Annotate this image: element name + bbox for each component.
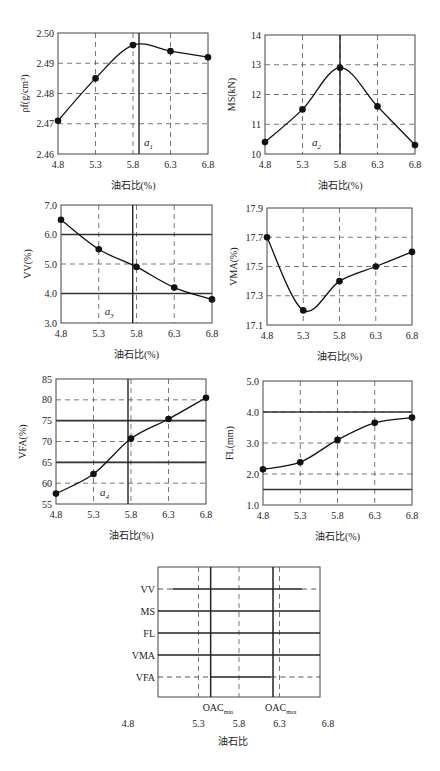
y-tick-label: 17.1 — [246, 320, 264, 331]
y-tick-label: 2.46 — [37, 149, 55, 160]
x-axis-title: 油石比(%) — [315, 530, 360, 543]
x-tick-label: 5.8 — [125, 509, 138, 520]
data-point — [374, 103, 381, 110]
data-point — [165, 416, 172, 423]
data-point — [53, 490, 60, 497]
marker-label: a2 — [312, 136, 322, 151]
x-tick-label: 4.8 — [50, 509, 63, 520]
x-tick-label: 5.3 — [297, 330, 310, 341]
x-axis-title: 油石比 — [218, 735, 248, 747]
x-tick-label: 5.3 — [89, 159, 102, 170]
x-tick-label: 4.8 — [122, 718, 135, 729]
y-tick-label: 5.0 — [45, 259, 58, 270]
data-point — [260, 466, 267, 473]
x-tick-label: 6.3 — [273, 718, 286, 729]
data-point — [203, 394, 210, 401]
x-tick-label: 4.8 — [52, 159, 65, 170]
range-row-vma: VMA — [132, 650, 320, 661]
x-axis-title: 油石比(%) — [109, 529, 154, 542]
y-tick-label: 17.9 — [246, 203, 264, 214]
marker-label: a1 — [144, 136, 153, 151]
y-tick-label: 75 — [42, 415, 52, 426]
data-point — [334, 437, 341, 444]
range-row-vfa: VFA — [136, 672, 320, 683]
y-tick-label: 2.49 — [37, 58, 55, 69]
x-tick-label: 4.8 — [259, 159, 272, 170]
range-row-ms: MS — [141, 606, 320, 617]
x-tick-label: 6.3 — [168, 328, 181, 339]
y-tick-label: 2.50 — [37, 28, 55, 39]
x-tick-label: 6.3 — [162, 509, 175, 520]
row-label: VFA — [136, 672, 156, 683]
chart-vma: 17.117.317.517.717.94.85.35.86.36.8油石比(%… — [228, 203, 418, 364]
x-tick-label: 5.8 — [331, 510, 344, 521]
x-tick-label: 6.3 — [164, 159, 177, 170]
data-point — [297, 459, 304, 466]
y-tick-label: 17.7 — [246, 232, 264, 243]
marker-label: a3 — [105, 305, 115, 320]
x-axis-title: 油石比(%) — [317, 350, 362, 363]
x-axis-title: 油石比(%) — [318, 179, 363, 192]
x-tick-label: 5.8 — [127, 159, 140, 170]
y-tick-label: 12 — [251, 89, 261, 100]
range-row-vv: VV — [141, 584, 320, 595]
x-tick-label: 5.8 — [130, 328, 143, 339]
data-point — [409, 249, 416, 256]
x-axis-title: 油石比(%) — [111, 179, 156, 192]
y-axis-title: VMA(%) — [228, 247, 240, 285]
data-point — [409, 414, 416, 421]
y-tick-label: 2.0 — [247, 469, 260, 480]
chart-vv: a33.04.05.06.07.04.85.35.86.36.8油石比(%)VV… — [22, 200, 218, 362]
chart-flow: 1.02.03.04.05.04.85.35.86.36.8油石比(%)FL(m… — [224, 376, 418, 544]
row-label: MS — [141, 606, 155, 617]
x-tick-label: 5.3 — [87, 509, 100, 520]
oac-max-label: OACmax — [265, 702, 296, 715]
y-tick-label: 4.0 — [45, 288, 58, 299]
y-tick-label: 1.0 — [247, 500, 260, 511]
data-point — [372, 263, 379, 270]
y-tick-label: 14 — [251, 30, 261, 41]
y-tick-label: 2.47 — [37, 118, 55, 129]
y-tick-label: 80 — [42, 394, 52, 405]
y-axis-title: VV(%) — [22, 249, 34, 278]
chart-density: a12.462.472.482.492.504.85.35.86.36.8油石比… — [19, 28, 214, 193]
x-tick-label: 6.8 — [406, 330, 419, 341]
x-axis-title: 油石比(%) — [114, 348, 159, 361]
y-axis-title: MS(kN) — [226, 78, 238, 111]
y-tick-label: 7.0 — [45, 200, 58, 211]
y-tick-label: 3.0 — [247, 438, 260, 449]
data-point — [167, 48, 174, 55]
chart-vfa: a4556065707580854.85.35.86.36.8油石比(%)VFA… — [17, 374, 212, 543]
x-tick-label: 6.8 — [200, 509, 213, 520]
x-tick-label: 5.3 — [296, 159, 309, 170]
y-tick-label: 10 — [251, 149, 261, 160]
x-tick-label: 6.3 — [370, 330, 383, 341]
y-tick-label: 85 — [42, 374, 52, 385]
x-tick-label: 5.8 — [233, 718, 246, 729]
row-label: VV — [141, 584, 156, 595]
data-point — [262, 139, 269, 146]
y-axis-title: ρf(g/cm³) — [19, 75, 31, 113]
x-tick-label: 4.8 — [55, 328, 68, 339]
data-point — [412, 142, 419, 149]
data-point — [205, 54, 212, 61]
data-point — [55, 117, 62, 124]
x-tick-label: 5.3 — [93, 328, 106, 339]
y-tick-label: 11 — [251, 119, 261, 130]
y-axis-title: FL(mm) — [224, 426, 236, 460]
data-point — [171, 284, 178, 291]
data-point — [299, 106, 306, 113]
grid — [58, 33, 208, 154]
x-tick-label: 6.8 — [322, 718, 335, 729]
x-tick-label: 5.3 — [294, 510, 307, 521]
chart-stability: a210111213144.85.35.86.36.8油石比(%)MS(kN) — [226, 30, 421, 193]
y-tick-label: 17.3 — [246, 290, 264, 301]
x-tick-label: 6.8 — [406, 510, 419, 521]
x-tick-label: 5.8 — [334, 159, 347, 170]
y-tick-label: 17.5 — [246, 261, 264, 272]
data-point — [337, 64, 344, 71]
oac-min-label: OACmin — [203, 702, 233, 715]
data-point — [336, 278, 343, 285]
y-tick-label: 5.0 — [247, 376, 260, 387]
y-tick-label: 4.0 — [247, 407, 260, 418]
